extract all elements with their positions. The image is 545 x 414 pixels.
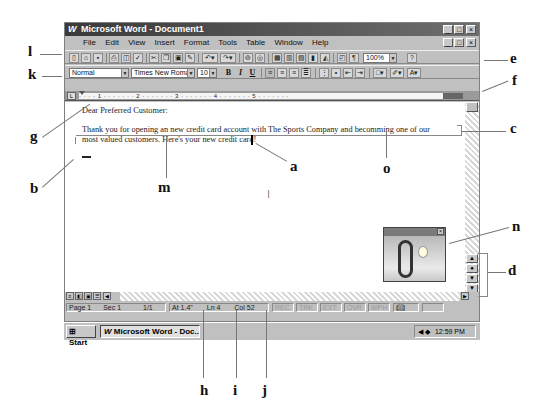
title-bar[interactable]: W Microsoft Word - Document1 xyxy=(65,23,479,36)
paste-icon[interactable]: ▣ xyxy=(173,53,183,63)
start-button[interactable]: ⊞ Start xyxy=(66,325,96,338)
horizontal-scrollbar[interactable] xyxy=(120,292,460,301)
menu-format[interactable]: Format xyxy=(184,38,209,47)
separator xyxy=(333,53,334,63)
bullets-icon[interactable]: • xyxy=(331,68,341,78)
tables-borders-icon[interactable]: ▦ xyxy=(272,53,282,63)
status-bar: Page 1 Sec 1 1/1 At 1.4" Ln 4 Col 52 REC… xyxy=(65,302,479,313)
menu-table[interactable]: Table xyxy=(246,38,265,47)
menu-tools[interactable]: Tools xyxy=(218,38,237,47)
underline-button[interactable]: U xyxy=(247,68,258,78)
status-empty xyxy=(422,303,444,312)
save-icon[interactable]: ▪ xyxy=(93,53,103,63)
web-layout-view-button[interactable]: ◧ xyxy=(75,292,83,300)
lightbulb-icon[interactable] xyxy=(418,246,428,258)
hyperlink-icon[interactable]: 🌐︎ xyxy=(243,53,253,63)
status-ovr[interactable]: OVR xyxy=(344,303,366,312)
network-icon[interactable]: ◆ xyxy=(425,328,430,335)
copy-icon[interactable]: ❐ xyxy=(161,53,171,63)
previous-page-button[interactable]: ▲ xyxy=(466,254,478,263)
font-select[interactable]: Times New Roman ▼ xyxy=(131,68,195,78)
callout-e: e xyxy=(510,50,517,67)
scroll-right-button[interactable]: ▶ xyxy=(461,292,469,300)
scroll-left-button[interactable]: ◀ xyxy=(103,292,111,300)
menu-help[interactable]: Help xyxy=(312,38,328,47)
format-painter-icon[interactable]: ✎ xyxy=(185,53,195,63)
bold-button[interactable]: B xyxy=(223,68,234,78)
help-icon[interactable]: ? xyxy=(407,53,417,63)
callout-l: l xyxy=(28,43,32,60)
select-browse-object-button[interactable]: ● xyxy=(466,264,478,273)
normal-view-button[interactable]: ≡ xyxy=(66,292,74,300)
callout-d-bracket xyxy=(478,253,488,297)
insert-excel-icon[interactable]: ▧ xyxy=(296,53,306,63)
status-page-count: 1/1 xyxy=(143,304,153,311)
font-size-value: 10 xyxy=(200,69,208,76)
system-tray: ◀︎ ◆ 12:59 PM xyxy=(414,325,476,338)
salutation-text: Dear Preferred Customer: xyxy=(82,106,168,115)
columns-icon[interactable]: ▮ xyxy=(308,53,318,63)
horizontal-ruler[interactable]: L · · · · 1 · · · · · · · 2 · · · · · · … xyxy=(65,91,479,101)
doc-close-button[interactable]: × xyxy=(466,38,476,47)
right-indent-marker[interactable] xyxy=(443,93,463,99)
italic-button[interactable]: I xyxy=(235,68,246,78)
paragraph-line-2: most valued customers. Here's your new c… xyxy=(82,135,256,144)
align-right-icon[interactable]: ≡ xyxy=(289,68,299,78)
style-select[interactable]: Normal ▼ xyxy=(69,68,129,78)
scroll-thumb[interactable] xyxy=(466,102,478,112)
speaker-icon[interactable]: ◀︎ xyxy=(418,328,423,335)
insert-table-icon[interactable]: ▥ xyxy=(284,53,294,63)
maximize-button[interactable]: □ xyxy=(454,25,464,34)
cut-icon[interactable]: ✂ xyxy=(149,53,159,63)
decrease-indent-icon[interactable]: ⇤ xyxy=(343,68,353,78)
doc-restore-button[interactable]: □ xyxy=(454,38,464,47)
redo-icon[interactable]: ↷▾ xyxy=(220,53,236,63)
chevron-down-icon: ▼ xyxy=(389,54,396,62)
numbering-icon[interactable]: ⋮ xyxy=(319,68,329,78)
status-rec[interactable]: REC xyxy=(272,303,294,312)
spelling-icon[interactable]: ✓ xyxy=(133,53,143,63)
undo-icon[interactable]: ↶▾ xyxy=(202,53,218,63)
borders-icon[interactable]: □▾ xyxy=(373,68,387,78)
status-wph[interactable]: WPH xyxy=(368,303,390,312)
tab-selector-icon[interactable]: L xyxy=(67,92,76,100)
menu-window[interactable]: Window xyxy=(274,38,302,47)
assistant-close-button[interactable]: × xyxy=(437,228,444,235)
show-hide-icon[interactable]: ¶ xyxy=(349,53,359,63)
menu-view[interactable]: View xyxy=(128,38,145,47)
menu-insert[interactable]: Insert xyxy=(155,38,175,47)
next-page-button[interactable]: ▼ xyxy=(466,274,478,283)
align-left-icon[interactable]: ≡ xyxy=(265,68,275,78)
taskbar-word-item[interactable]: W Microsoft Word - Doc... xyxy=(100,325,200,338)
minimize-button[interactable]: _ xyxy=(443,25,453,34)
outline-view-button[interactable]: ☰ xyxy=(93,292,101,300)
web-toolbar-icon[interactable]: ◎ xyxy=(255,53,265,63)
close-button[interactable]: × xyxy=(466,25,476,34)
menu-file[interactable]: File xyxy=(83,38,96,47)
office-assistant[interactable]: × xyxy=(383,227,446,282)
drawing-icon[interactable]: ◭ xyxy=(320,53,330,63)
first-line-indent-marker[interactable] xyxy=(79,91,85,95)
print-preview-icon[interactable]: ◫ xyxy=(121,53,131,63)
status-at: At 1.4" xyxy=(172,304,193,311)
doc-minimize-button[interactable]: _ xyxy=(443,38,453,47)
justify-icon[interactable]: ≣ xyxy=(301,68,311,78)
highlight-icon[interactable]: ✐▾ xyxy=(390,68,404,78)
zoom-select[interactable]: 100% ▼ xyxy=(363,53,397,63)
font-size-select[interactable]: 10 ▼ xyxy=(197,68,217,78)
new-icon[interactable]: ▯ xyxy=(69,53,79,63)
menu-edit[interactable]: Edit xyxy=(105,38,119,47)
print-icon[interactable]: ⎙ xyxy=(109,53,119,63)
align-center-icon[interactable]: ≡ xyxy=(277,68,287,78)
spelling-status-icon[interactable]: 📖︎ xyxy=(393,303,419,312)
font-color-icon[interactable]: A▾ xyxy=(407,68,421,78)
document-map-icon[interactable]: ◰ xyxy=(337,53,347,63)
status-column: Col 52 xyxy=(234,304,254,311)
increase-indent-icon[interactable]: ⇥ xyxy=(355,68,365,78)
callout-i: i xyxy=(233,382,237,399)
status-trk[interactable]: TRK xyxy=(296,303,318,312)
print-layout-view-button[interactable]: ▣ xyxy=(84,292,92,300)
callout-c-line xyxy=(462,131,506,132)
status-ext[interactable]: EXT xyxy=(320,303,342,312)
open-icon[interactable]: ⌂ xyxy=(81,53,91,63)
